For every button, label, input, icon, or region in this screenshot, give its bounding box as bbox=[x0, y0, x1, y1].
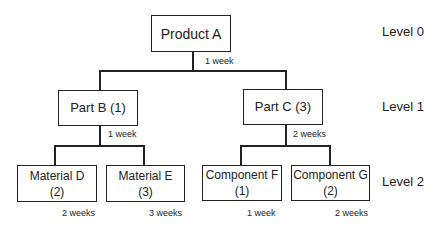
node-label: Material E bbox=[118, 168, 172, 184]
node-material-e: Material E (3) bbox=[106, 165, 185, 202]
connector-g-up bbox=[329, 145, 331, 165]
connector-f-up bbox=[240, 145, 242, 165]
level-label-0: Level 0 bbox=[382, 24, 424, 39]
node-qty: (3) bbox=[138, 184, 153, 200]
node-qty: (2) bbox=[50, 184, 65, 200]
connector-d-up bbox=[54, 145, 56, 165]
connector-level1-bar bbox=[99, 70, 287, 72]
connector-a-down bbox=[192, 51, 194, 71]
connector-c-children-bar bbox=[240, 145, 330, 147]
connector-c-up bbox=[285, 70, 287, 90]
node-component-g: Component G (2) bbox=[291, 165, 370, 201]
lead-time-part-b: 1 week bbox=[108, 129, 137, 139]
connector-b-children-bar bbox=[54, 145, 144, 147]
node-product-a: Product A bbox=[151, 15, 231, 52]
node-material-d: Material D (2) bbox=[17, 165, 97, 202]
connector-c-down bbox=[285, 124, 287, 146]
lead-time-part-c: 2 weeks bbox=[293, 129, 326, 139]
lead-time-component-f: 1 week bbox=[247, 208, 276, 218]
node-label: Product A bbox=[161, 26, 222, 42]
connector-b-down bbox=[99, 125, 101, 146]
lead-time-component-g: 2 weeks bbox=[335, 208, 368, 218]
node-label: Component F bbox=[206, 167, 279, 183]
connector-b-up bbox=[99, 70, 101, 91]
node-label: Part B (1) bbox=[70, 100, 126, 116]
lead-time-material-e: 3 weeks bbox=[149, 208, 182, 218]
node-component-f: Component F (1) bbox=[202, 165, 282, 201]
level-label-2: Level 2 bbox=[382, 174, 424, 189]
level-label-1: Level 1 bbox=[382, 99, 424, 114]
node-label: Component G bbox=[293, 167, 368, 183]
node-qty: (2) bbox=[323, 183, 338, 199]
node-part-c: Part C (3) bbox=[243, 89, 323, 125]
lead-time-product-a: 1 week bbox=[205, 56, 234, 66]
connector-e-up bbox=[143, 145, 145, 165]
node-label: Material D bbox=[30, 168, 85, 184]
node-part-b: Part B (1) bbox=[58, 90, 138, 126]
node-qty: (1) bbox=[235, 183, 250, 199]
lead-time-material-d: 2 weeks bbox=[62, 208, 95, 218]
node-label: Part C (3) bbox=[255, 99, 311, 115]
